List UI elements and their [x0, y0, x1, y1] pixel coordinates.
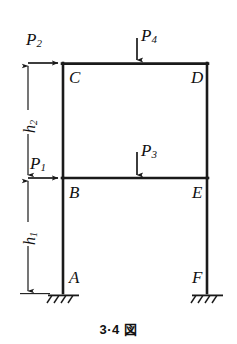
load-label-P3: P3 — [141, 142, 157, 160]
figure-container: P2 P1 P4 P3 h2 h1 C D B E A F 3·4 図 — [0, 0, 237, 344]
dimension-label-h1: h1 — [22, 232, 39, 245]
node-label-F: F — [192, 269, 202, 286]
load-label-P4: P4 — [141, 27, 157, 45]
node-label-A: A — [69, 269, 79, 286]
node-label-C: C — [69, 69, 80, 86]
figure-caption: 3·4 図 — [0, 319, 237, 338]
dimension-label-h2: h2 — [22, 120, 39, 133]
load-label-P2: P2 — [26, 31, 42, 49]
dimension-lines — [20, 66, 50, 294]
node-label-D: D — [191, 69, 203, 86]
load-label-P1: P1 — [30, 155, 46, 173]
support-F — [191, 295, 223, 303]
node-label-B: B — [69, 184, 79, 201]
support-A — [47, 295, 79, 303]
node-label-E: E — [192, 184, 202, 201]
frame-members — [62, 63, 208, 293]
